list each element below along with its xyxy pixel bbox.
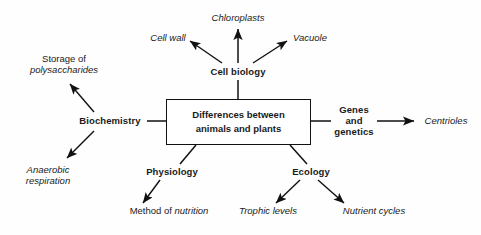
leaf-vacuole: Vacuole — [293, 32, 327, 43]
leaf-anaerobic-line1: Anaerobic — [26, 164, 70, 175]
connector-center-physiology — [180, 145, 196, 164]
leaf-trophic-levels: Trophic levels — [239, 205, 297, 216]
leaf-nutrient-cycles: Nutrient cycles — [343, 205, 405, 216]
node-genes-line2: and — [334, 115, 373, 126]
leaf-method-emphasis: nutrition — [175, 205, 209, 216]
central-node-line1: Differences between — [192, 108, 284, 122]
leaf-chloroplasts: Chloroplasts — [212, 12, 265, 23]
connector-biochemistry-storage — [70, 84, 94, 112]
node-physiology: Physiology — [146, 166, 198, 177]
connector-ecology-trophic — [276, 180, 300, 203]
node-genes-line3: genetics — [334, 127, 373, 138]
connector-physiology-nutrition — [143, 180, 160, 203]
leaf-storage-line1: Storage of — [30, 53, 98, 64]
connector-cellbiology-cellwall — [190, 41, 222, 63]
connector-cellbiology-vacuole — [253, 41, 287, 63]
leaf-method-prefix: Method of — [130, 205, 175, 216]
central-node-line2: animals and plants — [196, 122, 282, 136]
leaf-anaerobic-line2: respiration — [26, 175, 70, 186]
concept-map-diagram: Differences between animals and plants C… — [0, 0, 481, 235]
node-biochemistry: Biochemistry — [79, 115, 140, 126]
node-ecology: Ecology — [292, 166, 330, 177]
leaf-method-of-nutrition: Method of nutrition — [130, 205, 209, 216]
leaf-centrioles: Centrioles — [425, 115, 468, 126]
leaf-cell-wall: Cell wall — [150, 32, 185, 43]
node-genes-line1: Genes — [334, 104, 373, 115]
central-node: Differences between animals and plants — [166, 99, 311, 145]
leaf-storage-of-polysaccharides: Storage of polysaccharides — [30, 53, 98, 75]
node-genes-and-genetics: Genes and genetics — [334, 104, 373, 138]
connector-biochemistry-anaerobic — [67, 131, 94, 158]
node-cell-biology: Cell biology — [210, 66, 265, 77]
leaf-anaerobic-respiration: Anaerobic respiration — [26, 164, 70, 186]
connector-center-ecology — [290, 145, 307, 164]
leaf-storage-line2: polysaccharides — [30, 64, 98, 75]
connector-ecology-nutrient — [318, 180, 344, 203]
